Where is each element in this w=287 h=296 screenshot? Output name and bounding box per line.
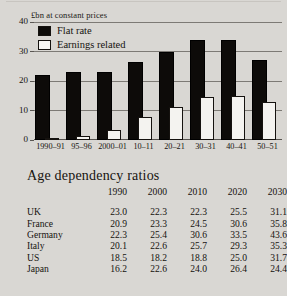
cell-value-2030: 24.4 [247, 263, 287, 274]
y-tick-mark-20 [30, 81, 34, 82]
top-rule [6, 1, 281, 2]
y-tick-label-20: 20 [6, 75, 28, 85]
cell-value-2000: 22.6 [127, 263, 167, 274]
cell-value-2010: 24.0 [167, 263, 207, 274]
cell-value-2030: 31.1 [247, 206, 287, 217]
bar-group [159, 22, 190, 140]
cell-value-1990: 22.3 [87, 229, 127, 240]
y-tick-mark-10 [30, 110, 34, 111]
cell-value-2020: 25.0 [207, 252, 247, 263]
cell-value-2010: 30.6 [167, 229, 207, 240]
cell-value-2000: 22.6 [127, 240, 167, 251]
bar-chart: £bn at constant prices 0102030401990–919… [0, 10, 287, 162]
bar-earnings-related [138, 117, 152, 140]
cell-value-2020: 29.3 [207, 240, 247, 251]
legend-label: Flat rate [57, 25, 92, 36]
cell-country: UK [27, 206, 87, 217]
bar-earnings-related [262, 102, 276, 140]
cell-country: Germany [27, 229, 87, 240]
table-row: Japan16.222.624.026.424.4 [27, 263, 287, 274]
column-header-2000: 2000 [127, 186, 167, 206]
cell-value-2000: 23.3 [127, 217, 167, 228]
legend-item-earnings-related: Earnings related [38, 38, 126, 51]
bar-earnings-related [76, 136, 90, 140]
cell-country: Japan [27, 263, 87, 274]
bar-earnings-related [200, 97, 214, 140]
table-row: Germany22.325.430.633.543.6 [27, 229, 287, 240]
bar-earnings-related [107, 130, 121, 140]
y-tick-label-10: 10 [6, 105, 28, 115]
cell-value-2000: 18.2 [127, 252, 167, 263]
column-header-2010: 2010 [167, 186, 207, 206]
cell-value-2020: 30.6 [207, 217, 247, 228]
cell-value-2000: 25.4 [127, 229, 167, 240]
cell-value-1990: 20.1 [87, 240, 127, 251]
y-tick-mark-40 [30, 22, 34, 23]
bar-group [128, 22, 159, 140]
bar-group [221, 22, 252, 140]
cell-value-2000: 22.3 [127, 206, 167, 217]
cell-value-2020: 25.5 [207, 206, 247, 217]
cell-value-2030: 43.6 [247, 229, 287, 240]
table-header-row: 1990 2000 2010 2020 2030 [27, 186, 287, 206]
column-header-2020: 2020 [207, 186, 247, 206]
bar-earnings-related [169, 107, 183, 140]
cell-value-2020: 26.4 [207, 263, 247, 274]
table-head: 1990 2000 2010 2020 2030 [27, 186, 287, 206]
cell-value-2030: 31.7 [247, 252, 287, 263]
legend-item-flat-rate: Flat rate [38, 24, 126, 37]
y-tick-label-30: 30 [6, 46, 28, 56]
cell-country: Italy [27, 240, 87, 251]
column-header-2030: 2030 [247, 186, 287, 206]
column-header-1990: 1990 [87, 186, 127, 206]
cell-value-2020: 33.5 [207, 229, 247, 240]
y-tick-label-40: 40 [6, 16, 28, 26]
legend-swatch-open-icon [38, 40, 51, 50]
bar-group [190, 22, 221, 140]
cell-country: France [27, 217, 87, 228]
y-axis-label: £bn at constant prices [31, 10, 107, 20]
legend-swatch-filled-icon [38, 26, 51, 36]
bar-group [252, 22, 283, 140]
table-row: UK23.022.322.325.531.1 [27, 206, 287, 217]
table-title: Age dependency ratios [27, 168, 159, 184]
cell-value-1990: 18.5 [87, 252, 127, 263]
chart-legend: Flat rate Earnings related [38, 24, 126, 52]
table-row: France20.923.324.530.635.8 [27, 217, 287, 228]
cell-value-2010: 22.3 [167, 206, 207, 217]
cell-value-1990: 16.2 [87, 263, 127, 274]
table-body: UK23.022.322.325.531.1France20.923.324.5… [27, 206, 287, 274]
bar-earnings-related [45, 138, 59, 140]
cell-value-2030: 35.8 [247, 217, 287, 228]
cell-value-1990: 23.0 [87, 206, 127, 217]
cell-value-2010: 18.8 [167, 252, 207, 263]
page-canvas: £bn at constant prices 0102030401990–919… [0, 0, 287, 296]
cell-value-2030: 35.3 [247, 240, 287, 251]
legend-label: Earnings related [57, 39, 126, 50]
age-dependency-table: 1990 2000 2010 2020 2030 UK23.022.322.32… [27, 186, 287, 274]
table-row: Italy20.122.625.729.335.3 [27, 240, 287, 251]
y-tick-label-0: 0 [6, 134, 28, 144]
cell-value-2010: 25.7 [167, 240, 207, 251]
column-header-country [27, 186, 87, 206]
y-tick-mark-30 [30, 51, 34, 52]
cell-value-1990: 20.9 [87, 217, 127, 228]
bar-flat-rate [66, 72, 81, 140]
bar-flat-rate [35, 75, 50, 140]
cell-country: US [27, 252, 87, 263]
table-row: US18.518.218.825.031.7 [27, 252, 287, 263]
x-tick-label: 50–51 [245, 142, 287, 151]
bar-earnings-related [231, 96, 245, 140]
cell-value-2010: 24.5 [167, 217, 207, 228]
